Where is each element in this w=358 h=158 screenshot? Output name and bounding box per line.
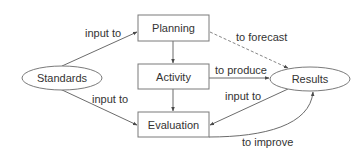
- node-results: Results: [270, 67, 350, 91]
- node-planning: Planning: [138, 15, 209, 41]
- node-results-label: Results: [292, 73, 329, 85]
- edge-label-evaluation-results: to improve: [242, 136, 293, 148]
- node-standards-label: Standards: [37, 72, 88, 84]
- node-activity-label: Activity: [156, 71, 191, 83]
- node-activity: Activity: [138, 64, 209, 89]
- edge-label-results-evaluation: input to: [225, 90, 261, 102]
- node-evaluation: Evaluation: [138, 112, 209, 137]
- node-planning-label: Planning: [152, 22, 195, 34]
- node-standards: Standards: [22, 66, 102, 90]
- edge-label-standards-planning: input to: [85, 27, 121, 39]
- edge-label-activity-results: to produce: [215, 64, 267, 76]
- process-diagram: Planning Activity Evaluation Standards R…: [0, 0, 358, 158]
- edge-label-standards-evaluation: input to: [92, 93, 128, 105]
- edge-label-planning-results: to forecast: [236, 31, 287, 43]
- node-evaluation-label: Evaluation: [148, 119, 199, 131]
